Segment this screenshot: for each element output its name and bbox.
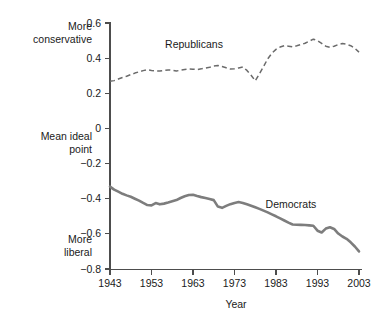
- chart-figure: 0.60.40.20−0.2−0.4−0.6−0.8 1943195319631…: [0, 0, 384, 324]
- series-label-republicans: Republicans: [165, 38, 223, 50]
- mean-ideal-point-line-chart: 0.60.40.20−0.2−0.4−0.6−0.8 1943195319631…: [0, 0, 384, 324]
- x-axis-ticks: [110, 270, 359, 275]
- more-conservative-label-line1: More: [68, 20, 92, 32]
- y-tick-label: −0.2: [80, 157, 101, 169]
- more-liberal-label-line2: liberal: [64, 246, 92, 258]
- x-axis-title: Year: [225, 298, 247, 310]
- x-tick-label: 2003: [347, 277, 371, 289]
- x-tick-label: 1983: [264, 277, 288, 289]
- x-axis-tick-labels: 1943195319631973198319932003: [98, 277, 371, 289]
- y-tick-label: −0.4: [80, 192, 101, 204]
- series-line-democrats: [110, 187, 359, 252]
- x-tick-label: 1953: [140, 277, 164, 289]
- x-tick-label: 1973: [223, 277, 247, 289]
- series-line-republicans: [110, 39, 359, 81]
- y-tick-label: 0.4: [86, 52, 101, 64]
- x-tick-label: 1993: [306, 277, 330, 289]
- y-tick-label: 0: [95, 122, 101, 134]
- x-tick-label: 1963: [181, 277, 205, 289]
- more-liberal-label-line1: More: [68, 233, 92, 245]
- mean-ideal-point-label-line2: point: [69, 143, 92, 155]
- mean-ideal-point-label-line1: Mean ideal: [41, 130, 92, 142]
- more-conservative-label-line2: conservative: [33, 33, 92, 45]
- x-tick-label: 1943: [98, 277, 122, 289]
- y-axis-ticks: [105, 23, 110, 269]
- y-tick-label: −0.8: [80, 263, 101, 275]
- series-label-democrats: Democrats: [266, 198, 317, 210]
- y-tick-label: 0.2: [86, 87, 101, 99]
